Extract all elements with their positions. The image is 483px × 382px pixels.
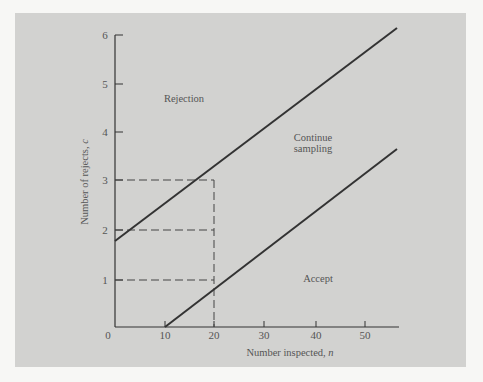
chart-svg: 6 5 4 3 2 1 0 10 20 30 40 50 Number insp… (0, 0, 483, 382)
y-tick-label: 2 (102, 224, 108, 236)
y-axis-title: Number of rejects, c (79, 139, 90, 225)
rejection-line (115, 28, 397, 241)
region-accept-label: Accept (303, 273, 333, 284)
region-continue-label: Continue (294, 132, 333, 143)
y-tick-label: 4 (102, 126, 108, 138)
y-ticks (115, 35, 123, 280)
x-ticks (165, 321, 365, 327)
region-continue-label-2: sampling (294, 143, 333, 154)
y-tick-label: 1 (102, 274, 108, 286)
x-tick-label: 40 (311, 329, 323, 341)
x-tick-label: 0 (105, 329, 111, 341)
y-tick-label: 3 (102, 174, 108, 186)
x-tick-label: 30 (259, 329, 271, 341)
region-rejection-label: Rejection (164, 93, 205, 104)
y-tick-label: 5 (102, 78, 108, 90)
x-tick-label: 20 (209, 329, 221, 341)
y-tick-label: 6 (102, 29, 108, 41)
x-tick-label: 50 (360, 329, 372, 341)
dashed-guides (115, 180, 214, 327)
x-axis-title: Number inspected, n (246, 347, 333, 358)
x-tick-label: 10 (160, 329, 172, 341)
